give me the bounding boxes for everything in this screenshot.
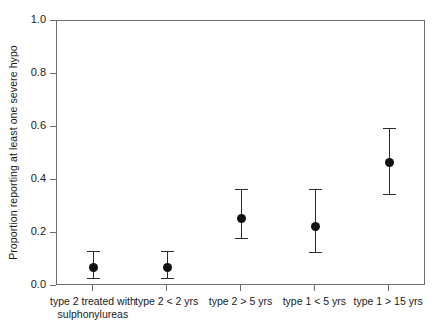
y-tick-label: 0.8 [18, 67, 46, 78]
data-point-marker [237, 214, 246, 223]
y-tick-label: 0.2 [18, 226, 46, 237]
data-point-marker [89, 263, 98, 272]
data-point-marker [163, 263, 172, 272]
y-tick-label: 0.4 [18, 173, 46, 184]
error-bar-cap-lower [383, 194, 396, 195]
error-bar-cap-upper [383, 128, 396, 129]
x-tick-mark [166, 285, 167, 291]
error-bar-cap-upper [161, 251, 174, 252]
x-tick-mark [388, 285, 389, 291]
chart-figure: Proportion reporting at least one severe… [0, 0, 442, 326]
error-bar-cap-upper [87, 251, 100, 252]
data-point-marker [311, 222, 320, 231]
error-bar-cap-upper [235, 189, 248, 190]
error-bar-cap-upper [309, 189, 322, 190]
x-tick-mark [92, 285, 93, 291]
plot-area [56, 20, 425, 285]
error-bar-cap-lower [161, 278, 174, 279]
y-tick-label: 0.0 [18, 279, 46, 290]
error-bar-cap-lower [235, 238, 248, 239]
x-tick-label: type 1 > 15 yrs [328, 295, 442, 308]
y-axis-title: Proportion reporting at least one severe… [4, 20, 22, 285]
error-bar-cap-lower [309, 252, 322, 253]
data-point-marker [385, 158, 394, 167]
x-tick-mark [314, 285, 315, 291]
x-tick-mark [240, 285, 241, 291]
y-tick-label: 1.0 [18, 14, 46, 25]
error-bar-cap-lower [87, 278, 100, 279]
y-tick-label: 0.6 [18, 120, 46, 131]
